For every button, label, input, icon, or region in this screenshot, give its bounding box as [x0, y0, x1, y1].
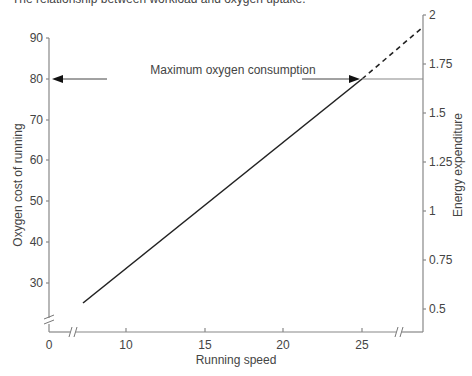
series-line-dashed	[362, 27, 423, 79]
y-tick-70: 70	[30, 113, 44, 127]
x-axis-break-left-icon	[69, 327, 77, 337]
left-y-axis	[46, 38, 49, 332]
max-oxygen-left-arrow	[52, 75, 107, 83]
y-tick-80: 80	[30, 72, 44, 86]
x-axis-break-right-icon	[395, 327, 403, 337]
y2-tick-2: 2	[429, 8, 436, 22]
x-tick-10: 10	[119, 338, 133, 352]
y-tick-50: 50	[30, 194, 44, 208]
x-tick-labels: 0 10 15 20 25	[46, 338, 369, 352]
y2-tick-1.75: 1.75	[429, 57, 453, 71]
annotation-max-oxygen: Maximum oxygen consumption	[150, 63, 315, 77]
y-tick-30: 30	[30, 276, 44, 290]
y2-axis-title: Energy expenditure	[451, 113, 465, 217]
y-tick-60: 60	[30, 153, 44, 167]
x-tick-15: 15	[198, 338, 212, 352]
y2-tick-1.25: 1.25	[429, 155, 453, 169]
y2-tick-0.5: 0.5	[429, 302, 446, 316]
x-tick-0: 0	[46, 338, 53, 352]
x-axis-title: Running speed	[196, 353, 277, 367]
y-tick-90: 90	[30, 31, 44, 45]
right-tick-labels: 2 1.75 1.5 1.25 1 0.75 0.5	[429, 8, 453, 316]
y-tick-40: 40	[30, 235, 44, 249]
x-axis	[49, 328, 423, 332]
y2-tick-0.75: 0.75	[429, 253, 453, 267]
x-tick-25: 25	[355, 338, 369, 352]
y2-tick-1.5: 1.5	[429, 106, 446, 120]
series-line-solid	[83, 79, 362, 303]
chart: 90 80 70 60 50 40 30 0 10 15 20 25 2 1.7…	[0, 0, 472, 376]
y2-tick-1: 1	[429, 204, 436, 218]
left-tick-labels: 90 80 70 60 50 40 30	[30, 31, 44, 290]
x-tick-20: 20	[276, 338, 290, 352]
y-axis-title: Oxygen cost of running	[11, 123, 25, 246]
right-y-axis	[423, 15, 426, 332]
